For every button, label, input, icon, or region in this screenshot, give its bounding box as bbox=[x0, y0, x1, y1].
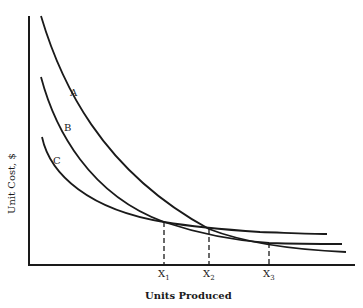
x2-sub: 2 bbox=[210, 274, 214, 282]
curve-a-label: A bbox=[70, 88, 77, 98]
x1-sub: 1 bbox=[165, 274, 169, 282]
x1-tick-label: X1 bbox=[158, 268, 170, 282]
curve-a bbox=[41, 16, 346, 252]
curve-c-label: C bbox=[53, 156, 61, 166]
chart-canvas bbox=[0, 0, 363, 308]
x-axis-label: Units Produced bbox=[145, 290, 232, 301]
curve-b-label: B bbox=[64, 123, 71, 133]
x2-tick-label: X2 bbox=[203, 268, 215, 282]
x3-sub: 3 bbox=[270, 274, 274, 282]
y-axis-label: Unit Cost, $ bbox=[6, 153, 17, 214]
curve-c bbox=[42, 137, 327, 234]
y-axis-label-wrap: Unit Cost, $ bbox=[6, 214, 18, 304]
x3-tick-label: X3 bbox=[263, 268, 275, 282]
